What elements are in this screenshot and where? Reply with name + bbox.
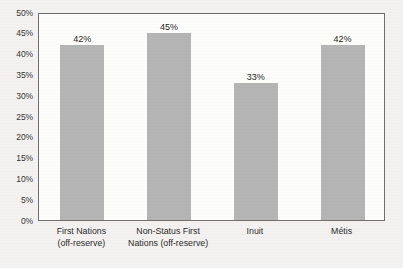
y-axis-tick-label: 35% (0, 71, 33, 80)
bar (321, 45, 365, 220)
x-axis-category-label-line: Nations (off-reserve) (117, 238, 220, 250)
x-axis-category-label: Métis (290, 226, 393, 238)
bar-chart: 50%45%40%35%30%25%20%15%10%5%0% 42%45%33… (0, 0, 403, 268)
y-axis: 50%45%40%35%30%25%20%15%10%5%0% (0, 13, 35, 221)
bars-layer: 42%45%33%42% (39, 14, 384, 220)
bar-value-label: 42% (311, 34, 375, 44)
y-axis-tick-label: 20% (0, 133, 33, 142)
y-axis-tick-label: 15% (0, 154, 33, 163)
y-axis-tick-label: 45% (0, 29, 33, 38)
bar (60, 45, 104, 220)
y-axis-tick-label: 30% (0, 92, 33, 101)
y-axis-tick-label: 10% (0, 175, 33, 184)
bar-value-label: 33% (224, 72, 288, 82)
x-axis-category-label-line: Métis (290, 226, 393, 238)
y-axis-tick-label: 5% (0, 196, 33, 205)
bar (147, 33, 191, 220)
bar-value-label: 42% (50, 34, 114, 44)
bar (234, 83, 278, 220)
y-axis-tick-label: 25% (0, 113, 33, 122)
plot-area: 42%45%33%42% (38, 13, 385, 221)
x-axis: First Nations(off-reserve)Non-Status Fir… (38, 226, 385, 262)
bar-value-label: 45% (137, 22, 201, 32)
y-axis-tick-label: 0% (0, 217, 33, 226)
y-axis-tick-label: 40% (0, 50, 33, 59)
y-axis-tick-label: 50% (0, 9, 33, 18)
